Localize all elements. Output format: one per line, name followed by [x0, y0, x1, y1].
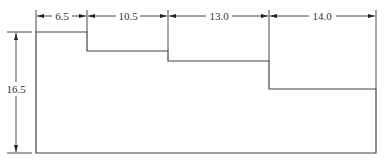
profile-outline	[36, 32, 376, 153]
dimension-label: 10.5	[118, 10, 138, 22]
dimension-label: 13.0	[209, 10, 229, 22]
dimension-10-5: 10.5	[88, 10, 167, 22]
dimension-label: 14.0	[312, 10, 332, 22]
stepped-profile-diagram: 6.5 10.5 13.0 14.0 16.5	[0, 0, 384, 160]
dimension-label: 6.5	[55, 10, 69, 22]
dimension-13-0: 13.0	[169, 10, 268, 22]
dimension-6-5: 6.5	[37, 10, 86, 22]
dimension-14-0: 14.0	[270, 10, 375, 22]
dimension-label: 16.5	[6, 83, 26, 95]
dimension-16-5: 16.5	[6, 32, 32, 153]
